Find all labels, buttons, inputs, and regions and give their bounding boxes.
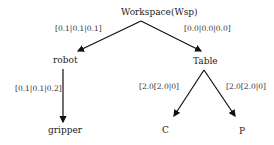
edge-table-p <box>204 70 235 116</box>
node-c: C <box>162 126 169 135</box>
edge-label-root-table: [0.0|0.0|0.0] <box>184 25 231 33</box>
edges-layer <box>0 0 274 145</box>
edge-table-c <box>174 70 204 116</box>
edge-label-table-c: [2.0[2.0|0] <box>139 83 179 91</box>
node-table: Table <box>193 57 218 66</box>
node-gripper: gripper <box>48 126 82 135</box>
node-p: P <box>239 127 245 136</box>
edge-label-robot-gripper: [0.1|0.1|0.2] <box>15 85 62 93</box>
edge-label-table-p: [2.0[2.0|0] <box>226 83 266 91</box>
tree-diagram: Workspace(Wsp) robot Table gripper C P [… <box>0 0 274 145</box>
node-robot: robot <box>53 56 78 65</box>
edge-label-root-robot: [0.1|0.1|0.1] <box>55 25 102 33</box>
node-workspace: Workspace(Wsp) <box>121 8 198 17</box>
